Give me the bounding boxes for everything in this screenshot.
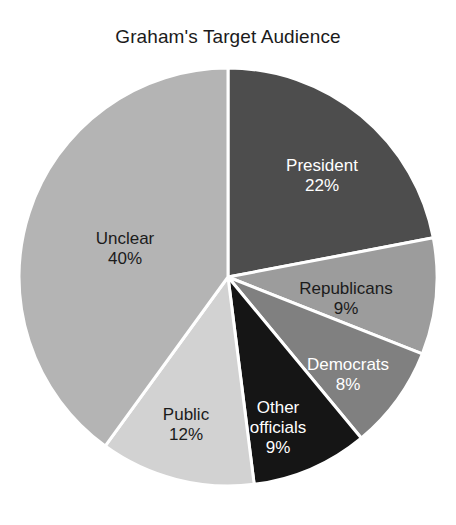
pie-slice-label-value: 40% xyxy=(96,249,155,269)
pie-slice-label-name: Democrats xyxy=(307,355,389,375)
pie-slices-group xyxy=(19,68,437,486)
pie-chart-figure: Graham's Target Audience President22%Rep… xyxy=(0,0,456,525)
pie-slice-label-name: Other xyxy=(250,398,306,418)
pie-slice-label-name: Republicans xyxy=(299,279,393,299)
pie-slice-label-value: 9% xyxy=(250,438,306,458)
pie-slice-label: President22% xyxy=(286,156,358,196)
pie-slice-label-value: 12% xyxy=(163,425,209,445)
pie-svg xyxy=(0,0,456,525)
pie-slice-label-value: 9% xyxy=(299,299,393,319)
pie-slice-label-name: President xyxy=(286,156,358,176)
pie-slice-label: Republicans9% xyxy=(299,279,393,319)
pie-slice-label-name: Unclear xyxy=(96,229,155,249)
pie-slice-label: Unclear40% xyxy=(96,229,155,269)
pie-slice-label-name: Public xyxy=(163,405,209,425)
pie-slice-label-name: officials xyxy=(250,418,306,438)
pie-chart-area: President22%Republicans9%Democrats8%Othe… xyxy=(0,0,456,525)
pie-slice-label-value: 22% xyxy=(286,176,358,196)
pie-slice-label: Democrats8% xyxy=(307,355,389,395)
pie-slice-label-value: 8% xyxy=(307,375,389,395)
pie-slice-label: Public12% xyxy=(163,405,209,445)
pie-slice-label: Otherofficials9% xyxy=(250,398,306,458)
